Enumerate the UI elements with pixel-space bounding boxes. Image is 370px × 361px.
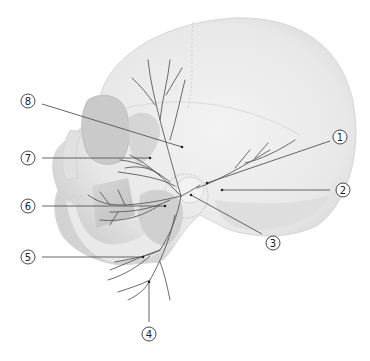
callout-number: 8 (25, 96, 31, 107)
leader-endpoint (181, 146, 184, 149)
callout-number: 2 (340, 185, 346, 196)
callout-number: 1 (337, 132, 343, 143)
orbit (82, 95, 130, 164)
skull (53, 18, 356, 265)
callout-number: 3 (270, 238, 276, 249)
leader-endpoint (221, 189, 224, 192)
leader-endpoint (149, 157, 152, 160)
callout-number: 4 (146, 329, 152, 340)
leader-endpoint (148, 281, 151, 284)
leader-endpoint (206, 182, 209, 185)
callout-number: 7 (25, 153, 31, 164)
anatomy-illustration: 12345678 (0, 0, 370, 361)
callout-4: 4 (142, 281, 156, 341)
leader-endpoint (190, 194, 193, 197)
leader-endpoint (164, 205, 167, 208)
callout-number: 6 (25, 201, 31, 212)
callout-number: 5 (25, 252, 31, 263)
leader-endpoint (142, 256, 145, 259)
